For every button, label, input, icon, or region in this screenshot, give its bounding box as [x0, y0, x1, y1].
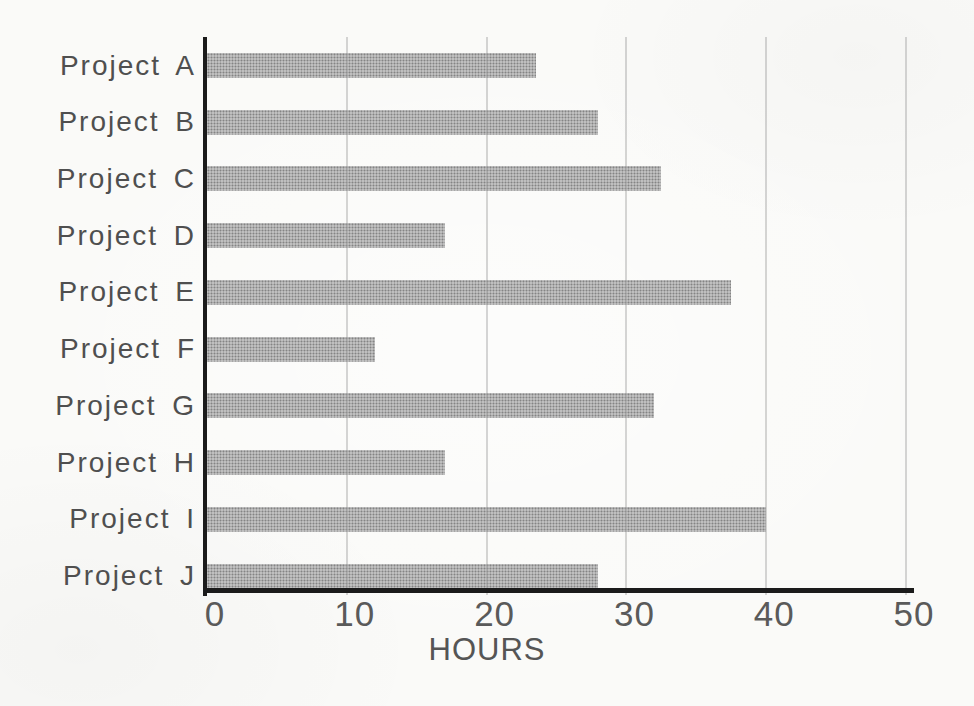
x-tick-label-0: 0	[205, 596, 225, 632]
plot-area	[207, 37, 906, 588]
category-label-project-b: Project B	[0, 104, 196, 140]
bar-project-c	[207, 166, 661, 191]
bar-project-d	[207, 223, 445, 248]
bar-project-h	[207, 450, 445, 475]
category-label-project-i: Project I	[0, 501, 196, 537]
category-label-project-h: Project H	[0, 445, 196, 481]
y-axis-line	[203, 37, 207, 596]
category-label-project-e: Project E	[0, 274, 196, 310]
bar-chart-figure: Project AProject BProject CProject DProj…	[0, 0, 974, 706]
bar-project-g	[207, 393, 654, 418]
x-tick-label-10: 10	[334, 596, 375, 632]
gridline-x-20	[486, 37, 487, 595]
x-tick-label-40: 40	[754, 596, 795, 632]
gridline-x-10	[346, 37, 347, 595]
category-label-project-g: Project G	[0, 388, 196, 424]
x-tick-label-30: 30	[614, 596, 655, 632]
category-label-project-a: Project A	[0, 48, 196, 84]
bar-project-b	[207, 110, 598, 135]
bar-project-j	[207, 564, 598, 589]
bar-project-e	[207, 280, 731, 305]
bar-project-f	[207, 337, 375, 362]
x-tick-label-50: 50	[894, 596, 935, 632]
x-axis-title: HOURS	[0, 632, 974, 668]
gridline-x-50	[906, 37, 907, 595]
category-label-project-d: Project D	[0, 218, 196, 254]
category-label-project-f: Project F	[0, 331, 196, 367]
gridline-x-40	[766, 37, 767, 595]
gridline-x-30	[626, 37, 627, 595]
category-label-project-c: Project C	[0, 161, 196, 197]
x-tick-label-20: 20	[474, 596, 515, 632]
x-axis-line	[203, 588, 914, 593]
category-label-project-j: Project J	[0, 558, 196, 594]
